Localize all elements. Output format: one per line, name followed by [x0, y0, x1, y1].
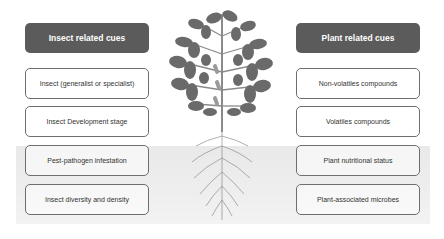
insect-cue-box: Insect diversity and density [25, 184, 149, 215]
insect-cue-box: Pest-pathogen infestation [25, 145, 149, 176]
insect-cue-box: Insect Development stage [25, 106, 149, 137]
plant-with-roots-icon [160, 6, 284, 226]
plant-cue-box: Plant nutritional status [296, 145, 420, 176]
insect-cues-header: Insect related cues [25, 23, 149, 53]
insect-cue-box: Insect (generalist or specialist) [25, 68, 149, 99]
plant-cue-box: Non-volatiles compounds [296, 68, 420, 99]
plant-cues-header: Plant related cues [296, 23, 420, 53]
plant-cue-box: Volatiles compounds [296, 106, 420, 137]
plant-cue-box: Plant-associated microbes [296, 184, 420, 215]
